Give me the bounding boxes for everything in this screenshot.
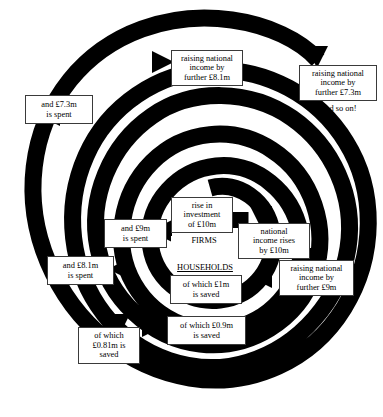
multiplier-spiral-diagram: raising national income by further £8.1m… bbox=[0, 0, 383, 417]
box-of-which-081m-saved: of which £0.81m is saved bbox=[78, 327, 140, 364]
box-of-which-1m-saved: of which £1m is saved bbox=[170, 275, 242, 304]
box-raising-national-income-73m: raising national income by further £7.3m bbox=[299, 65, 377, 101]
box-national-income-rises: national income rises by £10m bbox=[238, 223, 310, 259]
box-rise-in-investment: rise in investment of £10m bbox=[171, 197, 233, 233]
sector-label-households: HOUSEHOLDS bbox=[166, 263, 244, 273]
box-of-which-09m-saved: of which £0.9m is saved bbox=[167, 316, 246, 345]
annotation-and-so-on: and so on! bbox=[303, 104, 375, 114]
sector-label-firms: FIRMS bbox=[171, 236, 237, 246]
box-and-81m-is-spent: and £8.1m is spent bbox=[47, 256, 114, 285]
box-raising-national-income-81m: raising national income by further £8.1m bbox=[171, 50, 243, 86]
box-and-73m-is-spent: and £7.3m is spent bbox=[25, 95, 93, 124]
box-raising-national-income-9m: raising national income by further £9m bbox=[279, 260, 354, 296]
box-and-9m-is-spent: and £9m is spent bbox=[104, 219, 167, 248]
